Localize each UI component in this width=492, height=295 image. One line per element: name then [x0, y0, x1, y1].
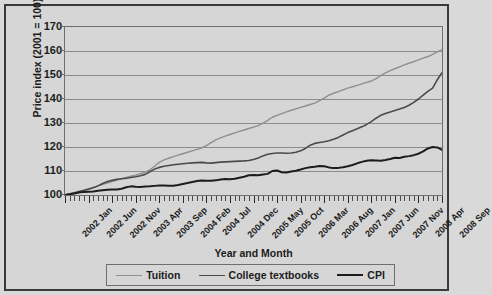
x-axis-major-tick	[183, 196, 184, 203]
x-axis-minor-tick	[385, 196, 386, 201]
x-axis-minor-tick	[258, 196, 259, 201]
x-axis-major-tick	[206, 196, 207, 203]
x-axis-minor-tick	[263, 196, 264, 201]
y-axis-tick-labels: 100110120130140150160170	[32, 20, 62, 202]
x-axis-minor-tick	[126, 196, 127, 201]
x-axis-minor-tick	[362, 196, 363, 201]
x-axis-minor-tick	[414, 196, 415, 201]
x-axis-minor-tick	[202, 196, 203, 201]
legend-label: Tuition	[146, 269, 180, 281]
x-axis-minor-tick	[117, 196, 118, 201]
x-axis-tick-labels: 2002 Jan2002 Jun2002 Nov2003 Apr2003 Sep…	[64, 205, 441, 247]
x-axis-minor-tick	[197, 196, 198, 201]
x-axis-minor-tick	[357, 196, 358, 201]
series-line	[65, 147, 442, 195]
y-axis-tick-label: 130	[32, 116, 62, 128]
x-axis-minor-tick	[343, 196, 344, 201]
x-axis-minor-tick	[225, 196, 226, 201]
x-axis-ticks	[64, 196, 441, 204]
x-axis-major-tick	[136, 196, 137, 203]
x-axis-minor-tick	[93, 196, 94, 201]
series-line	[65, 73, 442, 195]
x-axis-major-tick	[348, 196, 349, 203]
legend-line-swatch	[116, 275, 142, 276]
x-axis-minor-tick	[74, 196, 75, 201]
y-axis-tick-label: 150	[32, 68, 62, 80]
x-axis-minor-tick	[178, 196, 179, 201]
x-axis-minor-tick	[272, 196, 273, 201]
y-axis-tick-label: 170	[32, 20, 62, 32]
x-axis-minor-tick	[131, 196, 132, 201]
legend-entry[interactable]: Tuition	[116, 269, 180, 281]
x-axis-minor-tick	[282, 196, 283, 201]
x-axis-minor-tick	[296, 196, 297, 201]
x-axis-minor-tick	[423, 196, 424, 201]
x-axis-minor-tick	[305, 196, 306, 201]
y-axis-tick-label: 160	[32, 44, 62, 56]
x-axis-major-tick	[89, 196, 90, 203]
x-axis-major-tick	[324, 196, 325, 203]
x-axis-minor-tick	[404, 196, 405, 201]
x-axis-minor-tick	[329, 196, 330, 201]
x-axis-minor-tick	[84, 196, 85, 201]
x-axis-minor-tick	[98, 196, 99, 201]
x-axis-minor-tick	[310, 196, 311, 201]
series-lines	[65, 27, 442, 195]
legend-line-swatch	[337, 274, 363, 276]
x-axis-minor-tick	[249, 196, 250, 201]
x-axis-minor-tick	[122, 196, 123, 201]
y-axis-tick-label: 140	[32, 92, 62, 104]
x-axis-title: Year and Month	[64, 247, 443, 259]
x-axis-minor-tick	[107, 196, 108, 201]
x-axis-minor-tick	[169, 196, 170, 201]
x-axis-minor-tick	[400, 196, 401, 201]
x-axis-minor-tick	[315, 196, 316, 201]
x-axis-minor-tick	[381, 196, 382, 201]
x-axis-minor-tick	[376, 196, 377, 201]
series-line	[65, 50, 442, 195]
chart-figure: Price index (2001 = 100) 100110120130140…	[4, 4, 449, 291]
x-axis-minor-tick	[367, 196, 368, 201]
x-axis-major-tick	[442, 196, 443, 203]
x-axis-minor-tick	[145, 196, 146, 201]
x-axis-minor-tick	[155, 196, 156, 201]
x-axis-minor-tick	[334, 196, 335, 201]
x-axis-major-tick	[301, 196, 302, 203]
x-axis-minor-tick	[140, 196, 141, 201]
x-axis-major-tick	[395, 196, 396, 203]
x-axis-minor-tick	[188, 196, 189, 201]
x-axis-minor-tick	[352, 196, 353, 201]
x-axis-minor-tick	[216, 196, 217, 201]
x-axis-minor-tick	[390, 196, 391, 201]
x-axis-minor-tick	[319, 196, 320, 201]
x-axis-major-tick	[371, 196, 372, 203]
x-axis-minor-tick	[338, 196, 339, 201]
x-axis-major-tick	[230, 196, 231, 203]
x-axis-major-tick	[277, 196, 278, 203]
x-axis-minor-tick	[286, 196, 287, 201]
x-axis-minor-tick	[211, 196, 212, 201]
legend-entry[interactable]: CPI	[337, 269, 385, 281]
x-axis-minor-tick	[428, 196, 429, 201]
x-axis-minor-tick	[244, 196, 245, 201]
y-axis-tick-label: 100	[32, 188, 62, 200]
x-axis-major-tick	[159, 196, 160, 203]
x-axis-minor-tick	[79, 196, 80, 201]
legend-label: CPI	[367, 269, 385, 281]
x-axis-minor-tick	[437, 196, 438, 201]
x-axis-minor-tick	[164, 196, 165, 201]
x-axis-minor-tick	[150, 196, 151, 201]
x-axis-major-tick	[254, 196, 255, 203]
x-axis-major-tick	[418, 196, 419, 203]
y-axis-tick-label: 120	[32, 140, 62, 152]
plot-area	[64, 26, 443, 196]
chart-legend: TuitionCollege textbooksCPI	[106, 264, 395, 286]
x-axis-minor-tick	[221, 196, 222, 201]
legend-label: College textbooks	[229, 269, 319, 281]
x-axis-minor-tick	[268, 196, 269, 201]
x-axis-minor-tick	[433, 196, 434, 201]
x-axis-minor-tick	[103, 196, 104, 201]
y-axis-tick-label: 110	[32, 164, 62, 176]
x-axis-minor-tick	[409, 196, 410, 201]
legend-entry[interactable]: College textbooks	[199, 269, 319, 281]
